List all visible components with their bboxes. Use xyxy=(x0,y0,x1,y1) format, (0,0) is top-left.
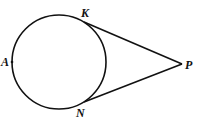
label-k: K xyxy=(80,6,90,20)
tangent-kp xyxy=(84,22,182,64)
label-n: N xyxy=(75,106,86,119)
tangent-np xyxy=(84,64,182,102)
label-p: P xyxy=(185,58,193,72)
circle xyxy=(12,15,106,109)
geometry-diagram: A K N P xyxy=(0,0,198,119)
point-a-dot xyxy=(11,61,14,64)
label-a: A xyxy=(0,55,9,69)
